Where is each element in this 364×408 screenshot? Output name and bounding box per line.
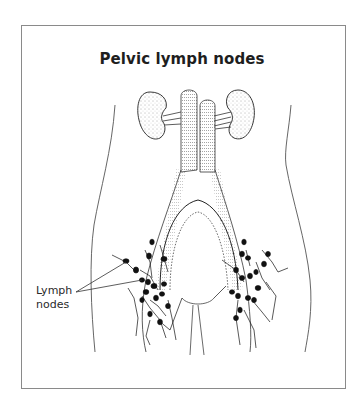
kidney-left [138,92,181,139]
great-vessels [181,90,215,172]
anatomy-illustration [0,0,364,408]
kidney-right [214,90,254,139]
bladder [182,298,214,355]
lymph-node-cluster-left [112,239,182,345]
label-pointer-lines [76,262,142,292]
